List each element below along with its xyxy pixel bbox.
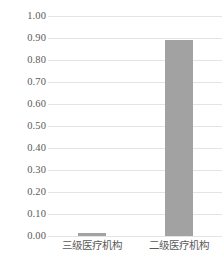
y-axis-tick-label: 1.00 [2,11,46,22]
bar [165,40,193,236]
y-axis-tick-label: 0.70 [2,77,46,88]
y-axis-tick-label: 0.90 [2,33,46,44]
y-axis-tick-label: 0.00 [2,231,46,242]
y-axis-tick-label: 0.10 [2,209,46,220]
bar-chart: 1.000.900.800.700.600.500.400.300.200.10… [0,0,224,267]
bar [78,233,106,237]
y-axis-tick-label: 0.60 [2,99,46,110]
y-axis-tick-label: 0.80 [2,55,46,66]
x-axis-category-label: 三级医疗机构 [48,239,135,253]
gridline [48,192,222,193]
gridline [48,16,222,17]
y-axis-tick-label: 0.20 [2,187,46,198]
y-axis-tick-label: 0.40 [2,143,46,154]
x-axis-category-label: 二级医疗机构 [135,239,222,253]
gridline [48,170,222,171]
plot-area [48,16,222,236]
gridline [48,236,222,237]
y-axis-tick-label: 0.50 [2,121,46,132]
gridline [48,148,222,149]
x-axis-category-labels: 三级医疗机构二级医疗机构 [48,239,222,259]
gridline [48,104,222,105]
gridline [48,126,222,127]
gridline [48,214,222,215]
gridline [48,38,222,39]
gridline [48,82,222,83]
y-axis-tick-label: 0.30 [2,165,46,176]
gridline [48,60,222,61]
